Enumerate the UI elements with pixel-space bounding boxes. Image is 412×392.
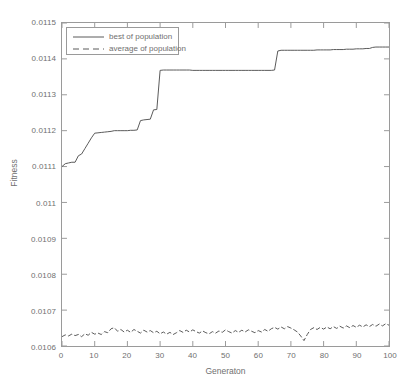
x-tick-label: 30 — [155, 351, 164, 360]
x-axis-label: Generaton — [61, 366, 390, 376]
y-tick-label: 0.0109 — [31, 234, 56, 243]
y-tick-label: 0.0108 — [31, 270, 56, 279]
legend-label-average: average of population — [109, 44, 186, 54]
figure-container: 0.01060.01070.01080.01090.0110.01110.011… — [0, 0, 412, 392]
x-tick-label: 60 — [254, 351, 263, 360]
x-tick-label: 40 — [188, 351, 197, 360]
x-tick-label: 10 — [89, 351, 98, 360]
y-tick-label: 0.0106 — [31, 343, 56, 352]
legend-line-sample-solid — [72, 32, 105, 42]
plot-area — [61, 22, 390, 347]
chart-legend: best of population average of population — [66, 27, 179, 55]
series-line-average-of-population — [62, 324, 389, 341]
y-tick-label: 0.0115 — [32, 18, 56, 27]
x-tick-label: 20 — [122, 351, 131, 360]
plot-svg — [62, 23, 389, 346]
y-tick-label: 0.0111 — [32, 162, 56, 171]
x-tick-label: 90 — [353, 351, 362, 360]
y-tick-label: 0.0114 — [32, 54, 56, 63]
series-line-best-of-population — [62, 47, 389, 167]
x-tick-label: 100 — [383, 351, 397, 360]
legend-line-sample-dashed — [72, 44, 105, 54]
y-axis-label: Fitness — [9, 143, 19, 203]
legend-item-average: average of population — [67, 43, 178, 54]
legend-item-best: best of population — [67, 31, 178, 42]
y-tick-label: 0.011 — [36, 198, 56, 207]
x-tick-label: 80 — [320, 351, 329, 360]
legend-label-best: best of population — [109, 32, 172, 42]
y-tick-label: 0.0113 — [32, 90, 56, 99]
x-tick-label: 70 — [287, 351, 296, 360]
y-tick-label: 0.0107 — [31, 306, 56, 315]
y-tick-label: 0.0112 — [32, 126, 56, 135]
x-tick-label: 50 — [221, 351, 230, 360]
x-axis-tick-labels: 0102030405060708090100 — [61, 351, 390, 365]
x-tick-label: 0 — [59, 351, 64, 360]
